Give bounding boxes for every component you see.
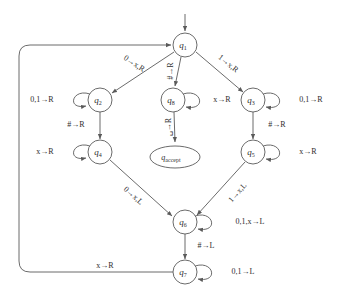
edge-label-q6-self: 0,1,x→L <box>236 217 265 226</box>
edge-q5-self: x→R <box>263 145 317 159</box>
edge-q6-to-q7: #→L <box>185 234 215 259</box>
state-node-q2[interactable]: q2 <box>88 88 112 112</box>
edge-q4-self: x→R <box>36 145 90 159</box>
edge-q8-self: x→R <box>183 93 231 107</box>
edge-label-q4-to-q6: 0→x,L <box>122 184 145 206</box>
edge-q8-to-qaccept: ␣→R <box>164 112 175 142</box>
edge-q4-to-q6: 0→x,L <box>110 160 172 216</box>
state-node-q8[interactable]: q8 <box>161 88 185 112</box>
edge-label-q1-to-q2: 0→x,R <box>122 53 147 74</box>
state-node-q6[interactable]: q6 <box>173 210 197 234</box>
edge-q5-to-q6: 1→x,L <box>197 162 248 215</box>
edge-label-q8-self: x→R <box>213 95 231 104</box>
edge-label-q8-to-qaccept: ␣→R <box>164 117 173 136</box>
edge-label-q7-to-q1: x→R <box>96 261 114 270</box>
edge-label-q3-to-q5: #→R <box>268 120 286 129</box>
edge-label-q6-to-q7: #→L <box>198 241 215 250</box>
edge-q6-self: 0,1,x→L <box>195 215 265 229</box>
state-node-q5[interactable]: q5 <box>241 140 265 164</box>
edge-q1-to-q2: 0→x,R <box>112 52 174 93</box>
edge-label-q3-self: 0,1→R <box>299 95 323 104</box>
edge-label-q1-to-q3: 1→x,R <box>217 53 241 75</box>
edge-label-q4-self: x→R <box>36 147 54 156</box>
state-node-q1[interactable]: q1 <box>173 33 197 57</box>
edge-q3-to-q5: #→R <box>253 112 286 139</box>
edge-label-q2-self: 0,1→R <box>30 95 54 104</box>
edge-label-q1-to-q8: #→R <box>166 62 175 80</box>
edge-q1-to-q8: #→R <box>166 57 181 86</box>
edge-q2-self: 0,1→R <box>30 93 90 107</box>
edge-label-q5-self: x→R <box>299 147 317 156</box>
edge-q3-self: 0,1→R <box>263 93 323 107</box>
state-node-q4[interactable]: q4 <box>88 140 112 164</box>
edge-label-q7-self: 0,1→L <box>232 267 255 276</box>
edge-q7-self: 0,1→L <box>195 265 255 279</box>
edge-q2-to-q4: #→R <box>67 112 100 139</box>
state-node-qaccept[interactable]: qaccept <box>150 146 200 168</box>
edge-label-q2-to-q4: #→R <box>67 120 85 129</box>
state-diagram: x→R 0→x,R #→R 1→x,R 0,1→R x→R 0,1→R ␣→R … <box>0 0 350 302</box>
state-node-q7[interactable]: q7 <box>173 260 197 284</box>
edge-label-q5-to-q6: 1→x,L <box>227 181 249 204</box>
state-node-q3[interactable]: q3 <box>241 88 265 112</box>
edge-q1-to-q3: 1→x,R <box>196 52 243 92</box>
